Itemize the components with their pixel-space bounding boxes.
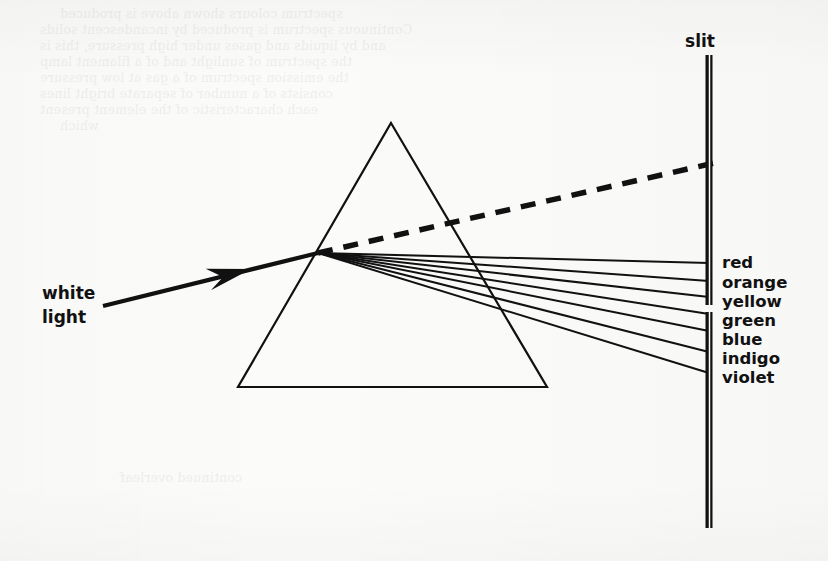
slit-screen bbox=[706, 55, 713, 528]
incident-ray-line bbox=[103, 253, 318, 306]
colour-label-blue: blue bbox=[722, 330, 762, 349]
white-light-label-line2: light bbox=[42, 307, 86, 327]
spectrum-ray-violet bbox=[318, 253, 709, 373]
white-light-label-line1: white bbox=[42, 283, 95, 303]
spectrum-ray-blue bbox=[318, 253, 709, 331]
undeviated-direction-dashed-line bbox=[318, 163, 714, 253]
prism-dispersion-diagram: slit white light redorangeyellowgreenblu… bbox=[0, 0, 828, 561]
spectrum-ray-yellow bbox=[318, 253, 709, 297]
colour-label-indigo: indigo bbox=[722, 349, 780, 368]
spectrum-colour-labels: redorangeyellowgreenblueindigoviolet bbox=[722, 253, 787, 387]
colour-label-violet: violet bbox=[722, 368, 775, 387]
slit-label: slit bbox=[685, 31, 715, 51]
incident-white-light-ray bbox=[103, 253, 318, 306]
colour-label-orange: orange bbox=[722, 273, 787, 292]
colour-label-red: red bbox=[722, 253, 753, 272]
dispersed-spectrum-rays bbox=[318, 253, 709, 373]
figure-canvas: spectrum colours shown above is produced… bbox=[0, 0, 828, 561]
colour-label-green: green bbox=[722, 311, 776, 330]
colour-label-yellow: yellow bbox=[722, 292, 782, 311]
